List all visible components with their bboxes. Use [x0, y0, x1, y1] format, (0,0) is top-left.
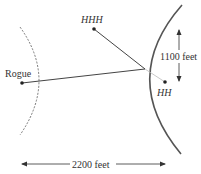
hh-label: HH: [156, 87, 172, 98]
rogue-label: Rogue: [5, 68, 32, 79]
diagram: Rogue HHH HH 1100 feet 2200 feet: [0, 0, 201, 174]
hyperbola-curve: [150, 5, 182, 154]
hhh-line: [94, 29, 145, 69]
hh-line: [145, 69, 165, 82]
hhh-point: [92, 27, 96, 31]
hhh-label: HHH: [80, 14, 103, 25]
horizontal-distance-label: 2200 feet: [72, 159, 110, 170]
vertical-distance-label: 1100 feet: [160, 51, 197, 62]
rogue-point: [20, 81, 24, 85]
hh-point: [163, 80, 167, 84]
rogue-line: [22, 69, 145, 83]
